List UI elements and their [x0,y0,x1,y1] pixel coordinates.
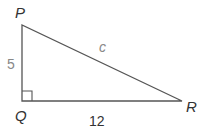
side-label-qr: 12 [89,113,105,129]
right-angle-marker [22,91,32,101]
triangle-pqr [22,25,182,101]
vertex-label-p: P [15,4,25,21]
triangle-diagram: P Q R 5 12 c [0,0,205,132]
vertex-label-r: R [186,98,197,115]
side-label-pq: 5 [7,56,15,72]
side-label-pr: c [99,39,106,55]
vertex-label-q: Q [15,107,27,124]
